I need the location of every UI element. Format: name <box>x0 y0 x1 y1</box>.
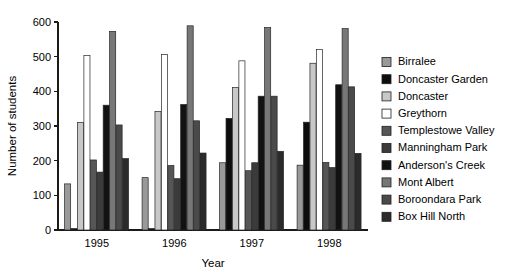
legend-label: Manningham Park <box>398 141 488 153</box>
bar: Templestowe Valley 1996: 186 <box>168 166 174 230</box>
legend-swatch <box>382 212 391 221</box>
bar: Doncaster 1998: 481 <box>310 63 316 230</box>
bar: Templestowe Valley 1998: 195 <box>323 162 329 230</box>
bar: Doncaster Garden 1997: 322 <box>226 118 232 230</box>
bar: Doncaster Garden 1996: 4 <box>149 229 155 230</box>
bar: Boroondara Park 1996: 315 <box>194 121 200 230</box>
bar: Boroondara Park 1998: 413 <box>349 87 355 230</box>
bar: Birralee 1995: 133 <box>65 184 71 230</box>
legend-swatch <box>382 92 391 101</box>
bar: Doncaster Garden 1998: 311 <box>304 122 310 230</box>
legend-label: Doncaster <box>398 90 448 102</box>
bar: Greythorn 1995: 503 <box>84 56 90 230</box>
bar: Anderson's Creek 1995: 360 <box>103 105 109 230</box>
bar: Mont Albert 1998: 581 <box>342 29 348 230</box>
legend-swatch <box>382 75 391 84</box>
bar: Manningham Park 1995: 167 <box>97 172 103 230</box>
bar: Greythorn 1998: 521 <box>316 49 322 230</box>
x-axis-group: 1995199619971998 <box>58 230 368 249</box>
y-tick-label: 300 <box>33 120 51 132</box>
legend-swatch <box>382 126 391 135</box>
bar: Anderson's Creek 1998: 419 <box>336 85 342 230</box>
legend-label: Anderson's Creek <box>398 159 486 171</box>
bar: Anderson's Creek 1996: 362 <box>181 105 187 230</box>
bar: Manningham Park 1996: 148 <box>174 179 180 230</box>
bar: Mont Albert 1996: 589 <box>187 26 193 230</box>
x-tick-label: 1996 <box>162 237 186 249</box>
legend-swatch <box>382 178 391 187</box>
legend-swatch <box>382 144 391 153</box>
bar: Box Hill North 1996: 222 <box>200 153 206 230</box>
y-axis-group: 0100200300400500600 <box>33 16 58 236</box>
y-tick-label: 200 <box>33 155 51 167</box>
bar: Boroondara Park 1995: 303 <box>116 125 122 230</box>
x-tick-label: 1998 <box>317 237 341 249</box>
bars-group: Birralee 1995: 133Doncaster Garden 1995:… <box>65 26 361 230</box>
y-tick-label: 600 <box>33 16 51 28</box>
bar: Birralee 1996: 151 <box>142 178 148 230</box>
legend-label: Doncaster Garden <box>398 73 488 85</box>
legend-label: Birralee <box>398 55 436 67</box>
legend-group: BirraleeDoncaster GardenDoncasterGreytho… <box>382 55 495 222</box>
bar: Manningham Park 1998: 180 <box>329 168 335 230</box>
y-axis-title: Number of students <box>6 76 18 177</box>
x-tick-label: 1995 <box>85 237 109 249</box>
legend-label: Boroondara Park <box>398 193 482 205</box>
bar: Doncaster 1995: 310 <box>77 123 83 230</box>
chart-figure: 0100200300400500600 1995199619971998 Bir… <box>0 0 521 272</box>
bar-chart: 0100200300400500600 1995199619971998 Bir… <box>0 0 521 272</box>
bar: Templestowe Valley 1995: 202 <box>90 160 96 230</box>
y-tick-label: 100 <box>33 189 51 201</box>
legend-label: Templestowe Valley <box>398 124 495 136</box>
legend-label: Mont Albert <box>398 176 454 188</box>
x-tick-label: 1997 <box>240 237 264 249</box>
bar: Mont Albert 1997: 584 <box>265 28 271 230</box>
x-axis-title: Year <box>201 257 224 269</box>
bar: Doncaster Garden 1995: 4 <box>71 229 77 230</box>
bar: Greythorn 1997: 488 <box>239 61 245 230</box>
bar: Birralee 1998: 187 <box>297 165 303 230</box>
legend-swatch <box>382 58 391 67</box>
legend-swatch <box>382 195 391 204</box>
bar: Anderson's Creek 1997: 386 <box>258 96 264 230</box>
legend-label: Box Hill North <box>398 210 465 222</box>
legend-swatch <box>382 161 391 170</box>
bar: Doncaster 1997: 411 <box>232 88 238 230</box>
y-tick-label: 500 <box>33 51 51 63</box>
bar: Box Hill North 1998: 221 <box>355 153 361 230</box>
bar: Doncaster 1996: 342 <box>155 111 161 230</box>
bar: Mont Albert 1995: 573 <box>110 31 116 230</box>
bar: Box Hill North 1995: 206 <box>122 159 128 230</box>
legend-swatch <box>382 109 391 118</box>
legend-label: Greythorn <box>398 107 447 119</box>
bar: Box Hill North 1997: 227 <box>277 151 283 230</box>
bar: Templestowe Valley 1997: 171 <box>245 171 251 230</box>
bar: Greythorn 1996: 506 <box>161 55 167 230</box>
y-tick-label: 400 <box>33 85 51 97</box>
bar: Birralee 1997: 194 <box>220 163 226 230</box>
bar: Boroondara Park 1997: 386 <box>271 96 277 230</box>
y-tick-label: 0 <box>45 224 51 236</box>
bar: Manningham Park 1997: 194 <box>252 163 258 230</box>
